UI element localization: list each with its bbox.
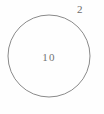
geometry-diagram: 10 2 bbox=[0, 0, 104, 114]
circle-radius-label: 2 bbox=[77, 4, 83, 15]
circle-center-label: 10 bbox=[0, 52, 98, 63]
